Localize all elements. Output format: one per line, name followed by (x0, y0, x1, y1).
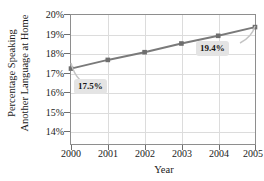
line-chart: Percentage Speaking Another Language at … (0, 0, 264, 181)
gridline-vertical-2003 (182, 15, 183, 144)
y-tick-label-14: 14% (30, 126, 64, 137)
y-tick-label-17: 17% (30, 67, 64, 78)
x-tick-label-2000: 2000 (53, 148, 89, 159)
gridline-horizontal-15 (71, 113, 255, 114)
x-tick-label-2005: 2005 (235, 148, 264, 159)
gridline-vertical-2004 (219, 15, 220, 144)
y-axis-title-line-1: Percentage Speaking (6, 0, 19, 148)
gridline-horizontal-17 (71, 74, 255, 75)
gridline-vertical-2001 (108, 15, 109, 144)
gridline-horizontal-19 (71, 35, 255, 36)
y-tick-label-16: 16% (30, 87, 64, 98)
x-tick-label-2001: 2001 (90, 148, 126, 159)
data-label-2005: 19.4% (196, 41, 229, 56)
data-label-2000: 17.5% (74, 79, 107, 94)
x-tick-label-2002: 2002 (127, 148, 163, 159)
y-tick-label-20: 20% (30, 9, 64, 20)
x-axis-title: Year (70, 164, 258, 175)
y-tick-label-18: 18% (30, 48, 64, 59)
x-tick-label-2003: 2003 (164, 148, 200, 159)
gridline-horizontal-14 (71, 132, 255, 133)
y-tick-label-19: 19% (30, 28, 64, 39)
gridline-vertical-2002 (145, 15, 146, 144)
y-tick-label-15: 15% (30, 106, 64, 117)
x-tick-label-2004: 2004 (201, 148, 237, 159)
